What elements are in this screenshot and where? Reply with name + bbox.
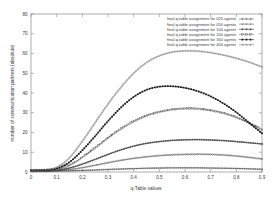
data-point-marker <box>92 138 94 140</box>
data-point-marker <box>156 86 158 88</box>
data-point-marker <box>59 169 61 171</box>
data-point-marker <box>210 139 212 141</box>
data-point-marker <box>61 166 63 168</box>
data-point-marker <box>112 152 114 154</box>
data-point-marker <box>126 101 128 103</box>
data-point-marker <box>85 162 87 164</box>
data-point-marker <box>235 111 237 113</box>
x-tick-label: 0.1 <box>53 175 60 180</box>
data-point-marker <box>124 103 126 105</box>
data-point-marker <box>142 91 144 93</box>
data-point-marker <box>189 139 191 141</box>
data-point-marker <box>188 88 190 90</box>
data-point-marker <box>133 96 135 98</box>
data-point-marker <box>248 142 250 144</box>
data-point-marker <box>239 114 241 116</box>
legend-item-label: final q-table assignment for 400 agents <box>167 42 236 47</box>
data-point-marker <box>175 86 177 88</box>
x-tick-label: 0.4 <box>130 175 137 180</box>
data-point-marker <box>109 118 111 120</box>
data-point-marker <box>99 130 101 132</box>
data-point-marker <box>102 126 104 128</box>
data-point-marker <box>232 140 234 142</box>
data-point-marker <box>97 132 99 134</box>
data-point-marker <box>83 147 85 149</box>
x-tick-label: 0.3 <box>105 175 112 180</box>
data-point-marker <box>194 139 196 141</box>
data-point-marker <box>259 143 261 145</box>
data-point-marker <box>219 139 221 141</box>
data-point-marker <box>118 108 120 110</box>
data-point-marker <box>167 140 169 142</box>
data-point-marker <box>242 28 244 30</box>
data-point-marker <box>253 126 255 128</box>
data-point-marker <box>195 90 197 92</box>
data-point-marker <box>178 139 180 141</box>
data-point-marker <box>187 139 189 141</box>
data-point-marker <box>81 163 83 165</box>
data-point-marker <box>76 155 78 157</box>
data-point-marker <box>108 120 110 122</box>
data-point-marker <box>130 98 132 100</box>
y-tick-label: 70 <box>22 31 28 36</box>
data-point-marker <box>245 142 247 144</box>
data-point-marker <box>108 153 110 155</box>
data-point-marker <box>106 154 108 156</box>
data-point-marker <box>134 145 136 147</box>
data-point-marker <box>198 139 200 141</box>
data-point-marker <box>223 140 225 142</box>
data-point-marker <box>129 146 131 148</box>
data-point-marker <box>163 140 165 142</box>
data-point-marker <box>149 142 151 144</box>
data-point-marker <box>180 86 182 88</box>
data-point-marker <box>66 168 68 170</box>
data-point-marker <box>230 108 232 110</box>
data-point-marker <box>114 151 116 153</box>
data-point-marker <box>87 144 89 146</box>
data-point-marker <box>251 124 253 126</box>
data-point-marker <box>241 116 243 118</box>
data-point-marker <box>210 96 212 98</box>
data-point-marker <box>201 139 203 141</box>
data-point-marker <box>247 121 249 123</box>
y-tick-label: 20 <box>22 130 28 135</box>
data-point-marker <box>257 143 259 145</box>
data-point-marker <box>90 140 92 142</box>
data-point-marker <box>172 85 174 87</box>
data-point-marker <box>261 132 263 134</box>
data-point-marker <box>177 86 179 88</box>
data-point-marker <box>113 114 115 116</box>
x-tick-label: 0.9 <box>259 175 266 180</box>
data-point-marker <box>212 97 214 99</box>
data-point-marker <box>135 95 137 97</box>
data-point-marker <box>180 139 182 141</box>
data-point-marker <box>236 141 238 143</box>
data-point-marker <box>147 142 149 144</box>
data-point-marker <box>89 160 91 162</box>
data-point-marker <box>77 165 79 167</box>
data-point-marker <box>123 148 125 150</box>
data-point-marker <box>261 143 263 145</box>
x-tick-label: 0.7 <box>207 175 214 180</box>
data-point-marker <box>145 143 147 145</box>
data-point-marker <box>185 87 187 89</box>
data-point-marker <box>120 106 122 108</box>
data-point-marker <box>78 153 80 155</box>
data-point-marker <box>91 159 93 161</box>
data-point-marker <box>250 142 252 144</box>
data-point-marker <box>171 139 173 141</box>
data-point-marker <box>250 39 252 41</box>
data-point-marker <box>70 167 72 169</box>
data-point-marker <box>128 99 130 101</box>
data-point-marker <box>221 140 223 142</box>
data-point-marker <box>74 165 76 167</box>
data-point-marker <box>224 103 226 105</box>
data-point-marker <box>205 139 207 141</box>
data-point-marker <box>151 142 153 144</box>
data-point-marker <box>72 166 74 168</box>
data-point-marker <box>158 141 160 143</box>
data-point-marker <box>196 139 198 141</box>
data-point-marker <box>154 141 156 143</box>
data-point-marker <box>252 142 254 144</box>
data-point-marker <box>245 119 247 121</box>
